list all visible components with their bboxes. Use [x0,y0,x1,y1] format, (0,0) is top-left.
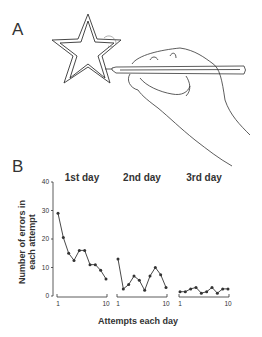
data-point [143,289,146,292]
data-point [99,269,102,272]
svg-text:0: 0 [45,292,49,299]
data-point [195,286,198,289]
svg-text:1: 1 [116,300,120,307]
star-icon [52,14,121,83]
data-point [189,287,192,290]
data-point [149,275,152,278]
data-point [179,290,182,293]
data-point [57,212,60,215]
data-point [165,286,168,289]
svg-text:30: 30 [42,207,50,214]
day-title: 2nd day [123,172,161,183]
svg-text:20: 20 [42,235,50,242]
series-1: 1101st day [56,172,110,307]
data-point [154,266,157,269]
svg-text:each attempt: each attempt [27,214,37,270]
series-group: 1101st day1102nd day1103rd day [56,172,232,307]
x-axis-label: Attempts each day [98,316,178,326]
data-point [127,283,130,286]
data-point [211,286,214,289]
data-point [105,277,108,280]
data-point [216,292,219,295]
pen-icon [105,66,246,74]
series-3: 1103rd day [178,172,232,307]
data-point [89,263,92,266]
data-point [227,287,230,290]
data-point [221,287,224,290]
star-tracing-illustration [0,0,262,170]
svg-text:10: 10 [224,300,232,307]
y-axis: 010203040 [42,178,53,299]
data-point [78,249,81,252]
data-point [159,273,162,276]
data-point [94,263,97,266]
data-point [62,236,65,239]
errors-chart: Number of errors in each attempt 0102030… [0,170,262,337]
svg-text:10: 10 [42,264,50,271]
day-title: 3rd day [186,172,222,183]
data-point [122,287,125,290]
y-axis-label: Number of errors in each attempt [17,200,37,284]
svg-text:Number of errors in: Number of errors in [17,200,27,284]
data-point [83,249,86,252]
data-point [138,279,141,282]
svg-text:1: 1 [178,300,182,307]
data-point [205,290,208,293]
data-point [184,290,187,293]
svg-text:10: 10 [162,300,170,307]
data-point [73,259,76,262]
data-point [117,257,120,260]
data-point [133,275,136,278]
data-point [200,292,203,295]
data-point [67,252,70,255]
series-2: 1102nd day [116,172,170,307]
svg-text:40: 40 [42,178,50,185]
svg-text:10: 10 [102,300,110,307]
svg-text:1: 1 [56,300,60,307]
day-title: 1st day [65,172,100,183]
